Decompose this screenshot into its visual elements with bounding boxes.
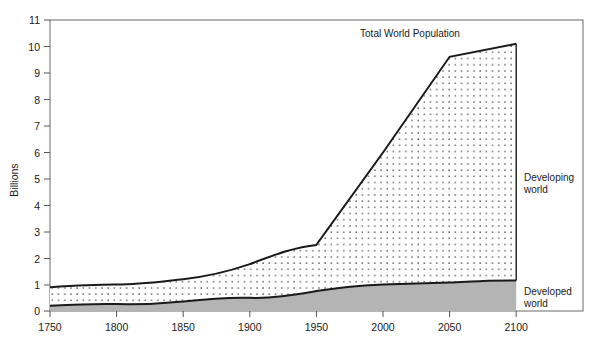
x-tick-label: 1900 — [238, 321, 262, 333]
population-area-chart: 11 10 9 8 7 6 5 4 3 2 1 0 1750 1800 1850… — [0, 0, 600, 346]
y-tick-label: 4 — [34, 200, 40, 212]
y-tick-label: 6 — [34, 147, 40, 159]
y-tick-label: 3 — [34, 226, 40, 238]
x-tick-label: 2000 — [371, 321, 395, 333]
y-tick-label: 1 — [34, 279, 40, 291]
axis-text-layer: 11 10 9 8 7 6 5 4 3 2 1 0 1750 1800 1850… — [0, 0, 600, 346]
y-axis-title: Billions — [8, 163, 20, 196]
x-tick-label: 1950 — [305, 321, 329, 333]
y-tick-label: 8 — [34, 94, 40, 106]
legend-developed-line1: Developed — [524, 286, 572, 297]
x-tick-label: 1750 — [38, 321, 62, 333]
x-tick-label: 2100 — [505, 321, 529, 333]
y-tick-label: 10 — [28, 41, 40, 53]
y-tick-label: 11 — [29, 14, 40, 26]
legend-developing-line2: world — [523, 184, 548, 195]
y-tick-label: 0 — [34, 305, 40, 317]
y-tick-label: 7 — [34, 120, 40, 132]
y-tick-label: 9 — [34, 67, 40, 79]
x-tick-label: 2050 — [438, 321, 462, 333]
y-tick-label: 2 — [34, 253, 40, 265]
x-tick-label: 1800 — [105, 321, 129, 333]
total-population-annotation: Total World Population — [360, 28, 460, 39]
y-tick-label: 5 — [34, 173, 40, 185]
legend-developed-line2: world — [523, 298, 548, 309]
x-tick-label: 1850 — [172, 321, 196, 333]
legend-developing-line1: Developing — [524, 172, 574, 183]
